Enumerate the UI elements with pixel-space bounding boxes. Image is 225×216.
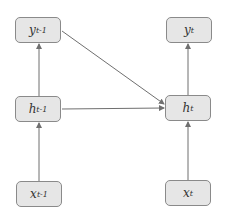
node-label-base: y [184, 23, 191, 37]
node-label-subscript: t-1 [36, 105, 47, 114]
node-label-base: x [183, 186, 190, 200]
node-label-base: x [30, 187, 37, 201]
node-label-subscript: t [191, 26, 194, 35]
node-y-t-minus-1: yt-1 [15, 17, 61, 43]
edge-h-prev-to-h-t [62, 108, 164, 109]
node-y-t: yt [166, 17, 212, 43]
node-x-t: xt [165, 180, 211, 206]
node-label-subscript: t [190, 189, 193, 198]
node-label-subscript: t [190, 104, 193, 113]
node-label-base: h [183, 101, 191, 115]
node-h-t: ht [165, 95, 211, 121]
node-label-subscript: t-1 [37, 190, 48, 199]
node-h-t-minus-1: ht-1 [15, 96, 61, 122]
edge-y-prev-to-h-t [62, 31, 164, 104]
node-label-base: y [29, 23, 36, 37]
node-x-t-minus-1: xt-1 [16, 181, 62, 207]
node-label-base: h [29, 102, 37, 116]
node-label-subscript: t-1 [36, 26, 47, 35]
